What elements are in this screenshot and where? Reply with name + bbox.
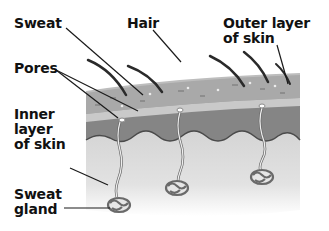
- sweat-gland-coil-1: [108, 198, 130, 212]
- sweat-gland-coil-2: [166, 181, 188, 195]
- label-outer-layer: Outer layer of skin: [223, 16, 310, 46]
- label-hair: Hair: [127, 16, 159, 31]
- label-sweat-gland: Sweat gland: [14, 187, 62, 217]
- leader-sweat: [66, 28, 143, 95]
- sweat-gland-coil-3: [251, 170, 273, 184]
- skin-diagram: Sweat Hair Outer layer of skin Pores Inn…: [0, 0, 329, 231]
- label-inner-layer: Inner layer of skin: [14, 107, 66, 152]
- label-pores: Pores: [14, 61, 58, 76]
- leader-hair: [153, 30, 181, 62]
- label-sweat: Sweat: [14, 16, 62, 31]
